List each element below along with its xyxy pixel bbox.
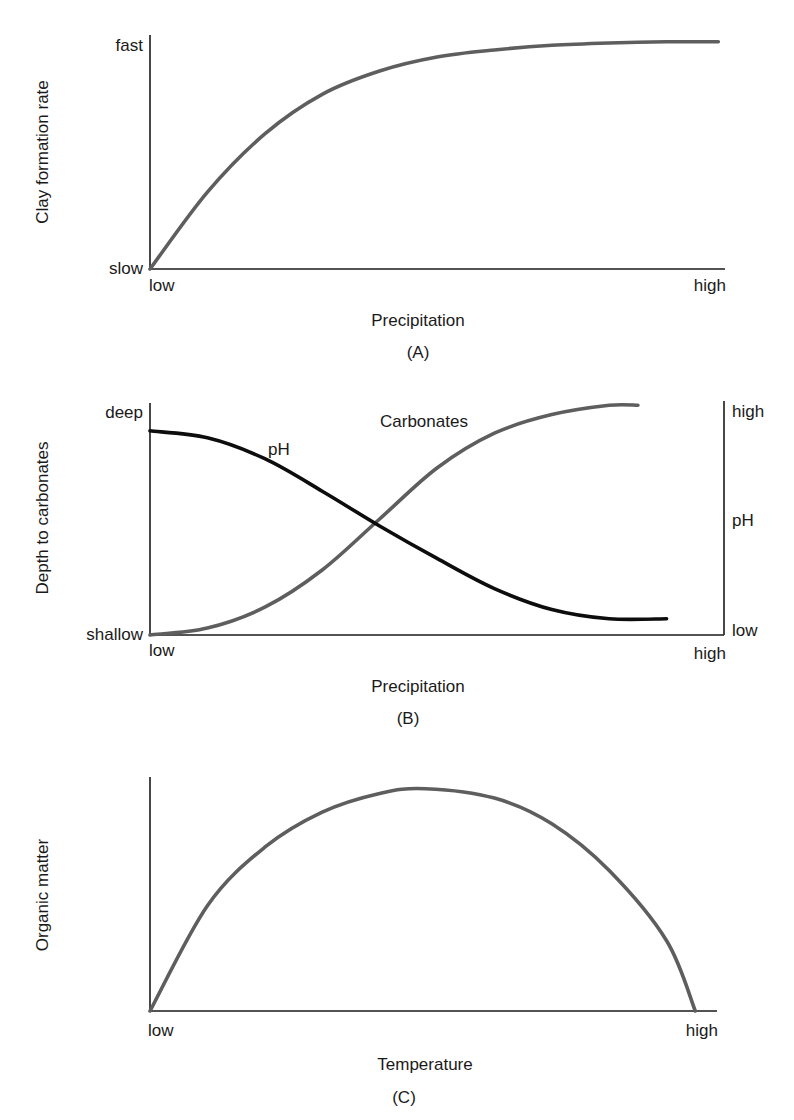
chart-b-y-bottom-label: shallow [86, 625, 143, 644]
chart-b-right-bottom-label: low [732, 621, 758, 640]
chart-c-x-title: Temperature [377, 1055, 472, 1074]
chart-a-caption: (A) [407, 343, 430, 362]
chart-b-right-top-label: high [732, 402, 764, 421]
chart-c: low high Temperature (C) Organic matter [33, 777, 718, 1107]
chart-a-x-right-label: high [694, 276, 726, 295]
chart-a: fast slow low high Precipitation (A) Cla… [33, 35, 726, 362]
chart-b-right-mid-label: pH [732, 511, 754, 530]
chart-b-ph-label: pH [268, 440, 290, 459]
chart-b-carbonates-curve [150, 405, 638, 635]
chart-b: Carbonates pH deep shallow high pH low l… [33, 401, 764, 728]
chart-a-clay-curve [150, 42, 718, 269]
chart-c-x-right-label: high [686, 1021, 718, 1040]
chart-a-x-left-label: low [149, 276, 175, 295]
chart-c-x-left-label: low [148, 1021, 174, 1040]
figure: fast slow low high Precipitation (A) Cla… [0, 0, 794, 1120]
chart-a-y-top-label: fast [116, 36, 144, 55]
chart-b-x-right-label: high [694, 644, 726, 663]
chart-c-organic-matter-curve [150, 788, 695, 1011]
chart-b-y-title: Depth to carbonates [33, 441, 52, 594]
chart-b-caption: (B) [397, 709, 420, 728]
chart-b-y-top-label: deep [105, 403, 143, 422]
chart-b-carbonates-label: Carbonates [380, 412, 468, 431]
chart-b-x-left-label: low [149, 641, 175, 660]
chart-b-ph-curve [150, 431, 667, 620]
chart-b-x-title: Precipitation [371, 677, 465, 696]
chart-a-y-title: Clay formation rate [33, 80, 52, 224]
chart-c-caption: (C) [392, 1088, 416, 1107]
chart-a-y-bottom-label: slow [109, 259, 144, 278]
chart-a-x-title: Precipitation [371, 311, 465, 330]
chart-c-y-title: Organic matter [33, 838, 52, 951]
